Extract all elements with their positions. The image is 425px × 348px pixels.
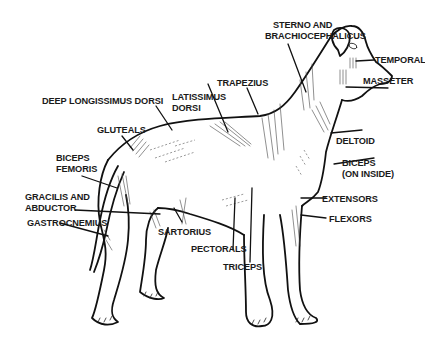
label-biceps-inside: BICEPS (ON INSIDE) xyxy=(342,158,394,179)
label-gluteals: GLUTEALS xyxy=(97,125,146,135)
muscle-labels: STERNO AND BRACHIOCEPHALICUS TEMPORAL MA… xyxy=(25,20,425,272)
label-extensors: EXTENSORS xyxy=(322,194,378,204)
label-trapezius: TRAPEZIUS xyxy=(217,78,268,88)
label-gastrocnemius: GASTROCNEMIUS xyxy=(27,218,107,228)
label-sterno: STERNO AND BRACHIOCEPHALICUS xyxy=(265,20,366,41)
label-pectorals: PECTORALS xyxy=(191,244,247,254)
label-biceps-femoris: BICEPS FEMORIS xyxy=(56,153,97,174)
label-sartorius: SARTORIUS xyxy=(158,227,211,237)
label-temporal: TEMPORAL xyxy=(375,55,425,65)
label-deltoid: DELTOID xyxy=(336,136,375,146)
leader-lines xyxy=(60,44,388,262)
dog-muscle-diagram: STERNO AND BRACHIOCEPHALICUS TEMPORAL MA… xyxy=(0,0,425,348)
label-masseter: MASSETER xyxy=(363,76,414,86)
label-flexors: FLEXORS xyxy=(329,214,372,224)
label-latissimus: LATISSIMUS DORSI xyxy=(172,92,228,113)
label-triceps: TRICEPS xyxy=(223,262,262,272)
label-longissimus: DEEP LONGISSIMUS DORSI xyxy=(42,96,163,106)
